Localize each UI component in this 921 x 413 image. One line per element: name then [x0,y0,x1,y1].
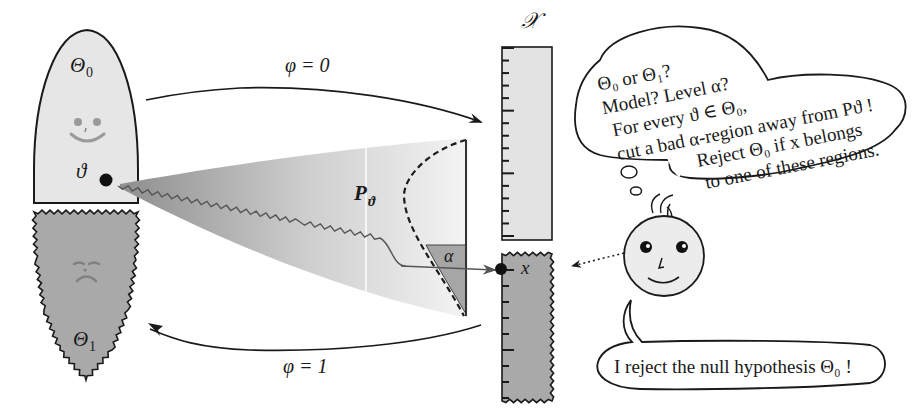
theta0-region: Θ 0 ϑ [34,30,138,203]
theta-point-label: ϑ [76,159,88,183]
theta1-label: Θ [73,327,88,351]
acceptance-region [502,47,552,240]
speech-bubble: I reject the null hypothesis Θ₀ ! [597,300,885,389]
phi1-label: φ = 1 [283,355,328,378]
statistician-face-icon [572,194,704,296]
thought-dot-large [621,166,637,178]
sample-space: 𝒳 x [495,8,554,403]
p-theta-subscript: ϑ [368,194,376,209]
thought-bubble: Θ₀ or Θ₁? Model? Level α? For every ϑ ∈ … [575,23,906,209]
look-arrow [572,253,624,266]
phi0-arrow: φ = 0 [146,54,481,122]
observation-point [495,263,507,275]
theta1-region: Θ 1 [33,210,140,380]
density-p-theta: P ϑ α [118,138,495,318]
phi0-label: φ = 0 [285,54,330,77]
p-theta-label: P [353,181,367,205]
thought-dot-small [631,187,642,195]
observation-label: x [520,257,530,278]
theta0-subscript: 0 [86,65,93,80]
theta0-label: Θ [70,53,85,77]
phi1-arrow: φ = 1 [148,323,481,378]
hypothesis-test-diagram: Θ 0 ϑ Θ 1 P ϑ α [0,0,921,413]
alpha-label: α [444,246,454,266]
sample-space-label: 𝒳 [521,8,546,33]
speech-text: I reject the null hypothesis Θ₀ ! [614,356,852,377]
theta-point [100,174,113,187]
theta1-subscript: 1 [89,339,96,354]
